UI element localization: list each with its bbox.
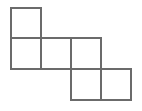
figure-canvas xyxy=(0,0,142,111)
square-r0c0 xyxy=(11,8,41,38)
square-r1c1 xyxy=(41,38,71,68)
square-r2c3 xyxy=(101,69,131,99)
square-r1c2 xyxy=(71,38,101,68)
square-r1c0 xyxy=(11,38,41,68)
polyomino-diagram xyxy=(0,0,142,111)
square-r2c2 xyxy=(71,69,101,99)
